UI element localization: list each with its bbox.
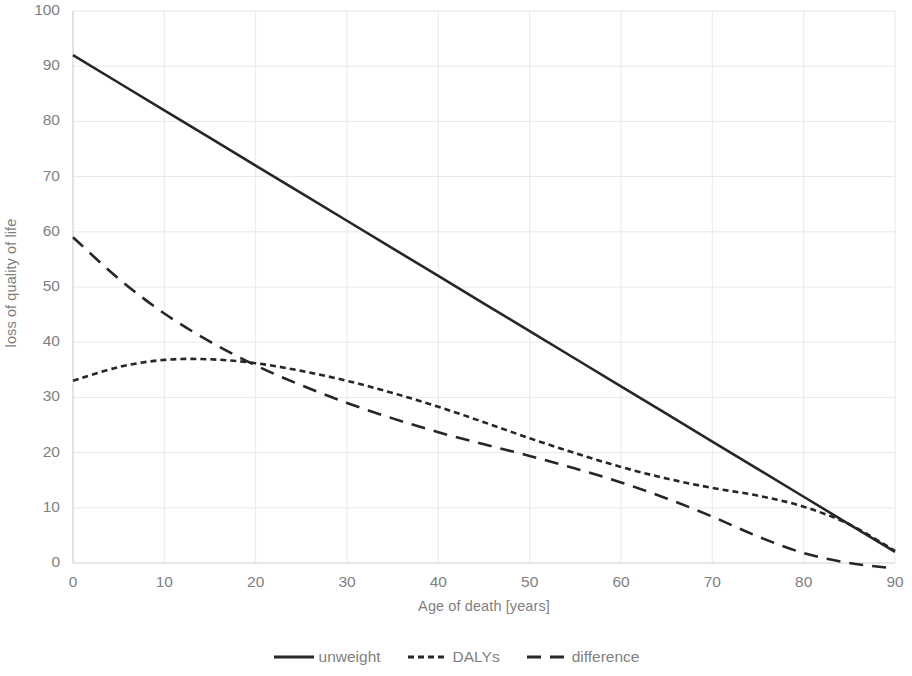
series-line-unweight [73,55,895,552]
data-series-layer [73,55,895,568]
plot-area [0,0,912,676]
chart-legend: unweightDALYsdifference [0,648,912,666]
legend-item-label: unweight [319,648,381,666]
grid-lines [73,11,895,563]
dotted-line-swatch [407,651,449,663]
line-chart: loss of quality of life Age of death [ye… [0,0,912,676]
legend-item-dalys[interactable]: DALYs [407,648,500,666]
legend-item-label: difference [572,648,640,666]
dashed-line-swatch [526,651,568,663]
legend-item-unweight[interactable]: unweight [273,648,381,666]
solid-line-swatch [273,651,315,663]
legend-item-difference[interactable]: difference [526,648,640,666]
series-line-dalys [73,359,895,551]
legend-item-label: DALYs [453,648,500,666]
